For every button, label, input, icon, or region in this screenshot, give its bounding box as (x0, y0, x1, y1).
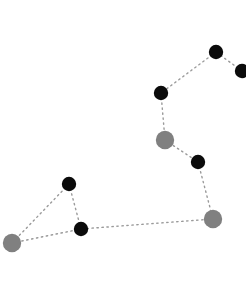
graph-node-left-upper[interactable] (62, 177, 76, 191)
graph-node-top-right-upper[interactable] (209, 45, 223, 59)
graph-node-lower-right-gray[interactable] (204, 210, 222, 228)
graph-edge (12, 184, 69, 243)
graph-node-upper-middle[interactable] (154, 86, 168, 100)
graph-node-center-gray[interactable] (156, 131, 174, 149)
graph-node-far-right-edge[interactable] (235, 64, 246, 78)
graph-edge (161, 52, 216, 93)
graph-edge (81, 219, 213, 229)
node-layer (3, 45, 246, 252)
graph-node-right-middle[interactable] (191, 155, 205, 169)
graph-node-far-left-gray[interactable] (3, 234, 21, 252)
diagram-canvas (0, 0, 246, 290)
node-link-graph (0, 0, 246, 290)
graph-node-left-lower[interactable] (74, 222, 88, 236)
graph-edge (12, 229, 81, 243)
